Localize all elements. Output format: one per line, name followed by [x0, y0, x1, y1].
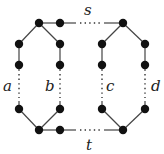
- node-top-left-hub: [35, 19, 43, 27]
- label-c: c: [106, 77, 115, 95]
- label-d: d: [151, 77, 161, 95]
- node-d-bottom: [141, 105, 149, 113]
- node-d-top-2: [141, 61, 149, 69]
- node-b-top-2: [56, 61, 64, 69]
- node-bottom-left-hub: [35, 126, 43, 134]
- node-c-bottom: [98, 105, 106, 113]
- label-a: a: [3, 77, 12, 95]
- node-bottom-right-hub: [119, 126, 127, 134]
- node-top-right-hub: [119, 19, 127, 27]
- label-s: s: [84, 1, 92, 19]
- vertical-dotted-paths: [19, 65, 145, 109]
- node-a-bottom: [15, 105, 23, 113]
- node-c-top-2: [98, 61, 106, 69]
- top-edges: [19, 23, 145, 65]
- node-top-s-start: [56, 19, 64, 27]
- node-c-top-1: [98, 40, 106, 48]
- label-b: b: [45, 77, 55, 95]
- node-d-top-1: [141, 40, 149, 48]
- node-bottom-t-start: [56, 126, 64, 134]
- node-a-top-2: [15, 61, 23, 69]
- node-a-top-1: [15, 40, 23, 48]
- label-t: t: [86, 136, 93, 154]
- node-b-top-1: [56, 40, 64, 48]
- graph-diagram: s t a b c d: [0, 0, 164, 154]
- node-b-bottom: [56, 105, 64, 113]
- nodes: [15, 19, 149, 134]
